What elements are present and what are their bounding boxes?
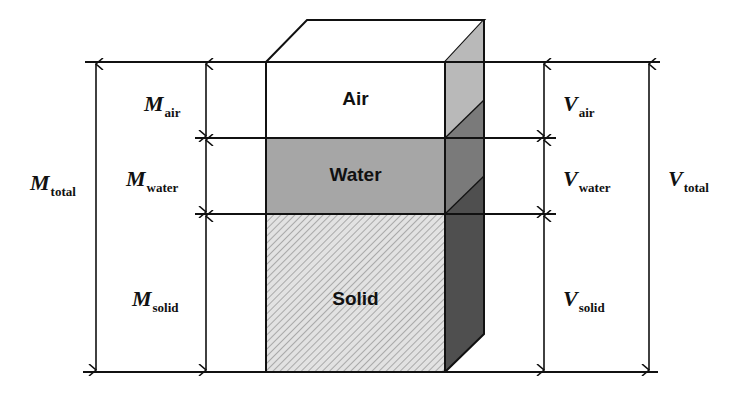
phase-label-solid: Solid — [266, 288, 445, 310]
label-v-total: Vtotal — [668, 168, 709, 190]
label-m-solid: Msolid — [132, 288, 179, 310]
label-m-total: Mtotal — [30, 172, 76, 194]
phase-diagram: Air Water Solid Mtotal Mair Mwater Msoli… — [0, 0, 736, 396]
label-v-solid: Vsolid — [563, 288, 605, 310]
label-v-water: Vwater — [563, 168, 610, 190]
label-m-water: Mwater — [126, 168, 178, 190]
phase-label-air: Air — [266, 88, 445, 110]
phase-diagram-graphic — [0, 0, 736, 396]
label-m-air: Mair — [144, 93, 180, 115]
label-v-air: Vair — [563, 93, 595, 115]
phase-label-water: Water — [266, 164, 445, 186]
